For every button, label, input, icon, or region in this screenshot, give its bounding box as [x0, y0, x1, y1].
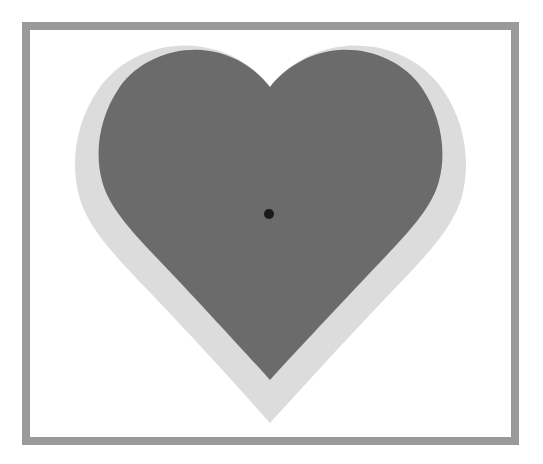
frame-border — [22, 22, 519, 445]
image-canvas — [0, 0, 543, 464]
